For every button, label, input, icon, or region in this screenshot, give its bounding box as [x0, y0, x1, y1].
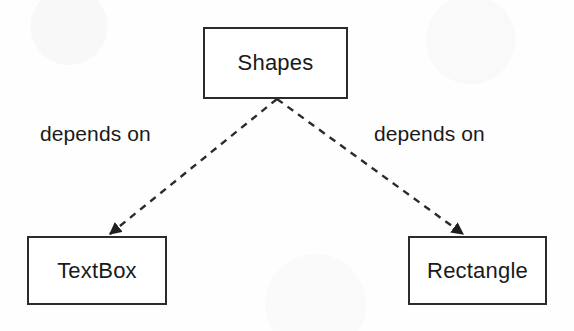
- node-textbox[interactable]: TextBox: [27, 236, 167, 305]
- node-shapes[interactable]: Shapes: [203, 27, 348, 99]
- edge-label-shapes-to-textbox: depends on: [40, 122, 151, 146]
- node-shapes-label: Shapes: [238, 50, 314, 76]
- diagram-canvas: Shapes TextBox Rectangle depends on depe…: [0, 0, 574, 331]
- edge-label-shapes-to-rectangle: depends on: [374, 122, 485, 146]
- node-rectangle[interactable]: Rectangle: [408, 236, 547, 305]
- node-textbox-label: TextBox: [57, 258, 137, 284]
- edge-shapes-to-textbox: [110, 99, 277, 234]
- edge-shapes-to-rectangle: [277, 99, 463, 234]
- node-rectangle-label: Rectangle: [427, 258, 528, 284]
